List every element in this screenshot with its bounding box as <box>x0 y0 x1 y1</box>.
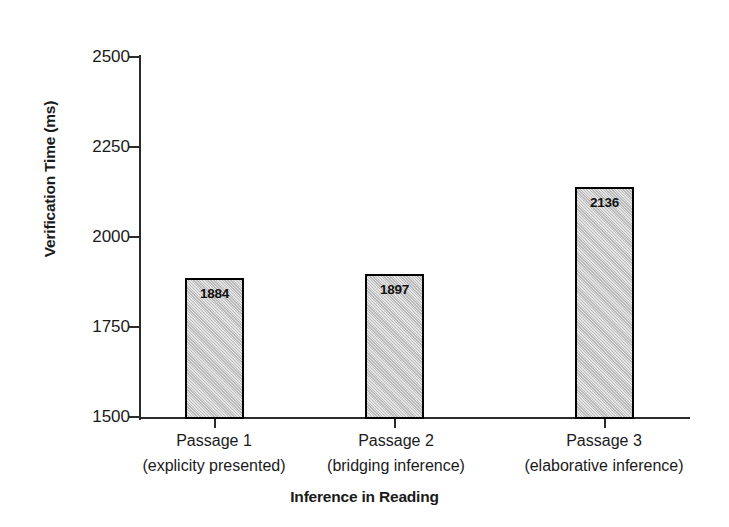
y-tick-mark-1500 <box>128 416 139 418</box>
bar-chart-figure: Verification Time (ms) 2500 2250 2000 17… <box>0 0 729 527</box>
bar-value-label-passage-3: 2136 <box>577 195 632 210</box>
x-tick-mark-passage-2 <box>394 419 396 428</box>
y-tick-label-1500: 1500 <box>60 407 130 427</box>
y-tick-mark-2000 <box>128 236 139 238</box>
y-tick-label-2250: 2250 <box>60 137 130 157</box>
x-category-line2-passage-2: (bridging inference) <box>281 453 511 478</box>
x-category-line2-passage-3: (elaborative inference) <box>489 453 719 478</box>
x-category-line1-passage-3: Passage 3 <box>489 428 719 453</box>
y-axis-title: Verification Time (ms) <box>41 69 59 289</box>
y-tick-label-2500: 2500 <box>60 47 130 67</box>
bar-passage-3: 2136 <box>575 187 634 419</box>
bar-passage-1: 1884 <box>185 278 244 419</box>
x-category-label-passage-3: Passage 3 (elaborative inference) <box>489 428 719 478</box>
bar-value-label-passage-2: 1897 <box>367 282 422 297</box>
y-tick-mark-1750 <box>128 326 139 328</box>
y-tick-label-2000: 2000 <box>60 227 130 247</box>
bar-value-label-passage-1: 1884 <box>187 286 242 301</box>
x-tick-mark-passage-1 <box>214 419 216 428</box>
x-tick-mark-passage-3 <box>604 419 606 428</box>
bar-passage-2: 1897 <box>365 274 424 419</box>
y-tick-mark-2250 <box>128 146 139 148</box>
x-axis-title: Inference in Reading <box>0 488 729 506</box>
x-category-label-passage-2: Passage 2 (bridging inference) <box>281 428 511 478</box>
y-tick-mark-2500 <box>128 56 139 58</box>
x-category-line1-passage-2: Passage 2 <box>281 428 511 453</box>
y-axis-line <box>139 55 141 420</box>
y-tick-label-1750: 1750 <box>60 317 130 337</box>
